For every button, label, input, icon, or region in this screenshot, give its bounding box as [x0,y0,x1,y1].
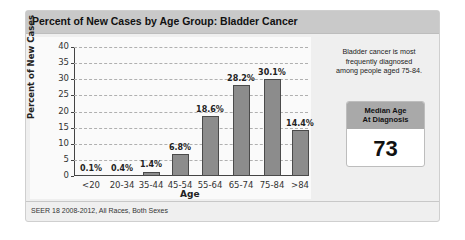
insight-text: Bladder cancer is most frequently diagno… [334,47,424,76]
y-tick-label: 15 [54,122,69,132]
y-tick-mark [71,128,74,129]
bar-value-label: 30.1% [252,68,292,77]
y-tick-label: 10 [54,138,69,148]
bar-65-74 [233,85,250,176]
panel-title: Percent of New Cases by Age Group: Bladd… [32,15,298,27]
y-tick-label: 30 [54,73,69,83]
bar-value-label: 14.4% [280,119,320,128]
y-tick-mark [71,112,74,113]
bar-55-64 [202,116,219,176]
y-tick-mark [71,47,74,48]
y-tick-mark [71,95,74,96]
bar-<20 [83,175,100,176]
bar-35-44 [143,172,160,177]
median-age-value: 73 [347,136,424,162]
y-tick-mark [71,79,74,80]
y-tick-label: 20 [54,106,69,116]
y-tick-label: 5 [54,154,69,164]
bar-value-label: 18.6% [190,105,230,114]
footer-divider [26,201,439,202]
y-tick-label: 40 [54,41,69,51]
bar-45-54 [172,154,189,176]
median-age-card: Median Age At Diagnosis 73 [346,101,425,167]
bar-20-34 [114,175,131,176]
panel-header: Percent of New Cases by Age Group: Bladd… [26,11,439,34]
chart-area: Percent of New Cases 05101520253035400.1… [30,37,311,199]
median-age-header: Median Age At Diagnosis [347,102,424,129]
y-axis-label: Percent of New Cases [26,15,36,119]
bar-value-label: 6.8% [160,143,200,152]
y-tick-mark [71,176,74,177]
plot-area: 05101520253035400.1%<200.4%20-341.4%35-4… [74,47,312,176]
median-label-line1: Median Age [347,106,424,115]
bar->84 [292,130,309,176]
bar-75-84 [264,79,281,176]
footer-source: SEER 18 2008-2012, All Races, Both Sexes [31,207,168,214]
x-axis-label: Age [180,189,200,199]
gridline [74,63,308,64]
y-tick-label: 0 [54,170,69,180]
y-tick-label: 35 [54,57,69,67]
median-label-line2: At Diagnosis [347,115,424,124]
y-tick-label: 25 [54,89,69,99]
x-tick-label: >84 [280,180,320,190]
bar-value-label: 1.4% [131,160,171,169]
chart-panel: Percent of New Cases by Age Group: Bladd… [25,10,440,222]
gridline [74,47,308,48]
y-tick-mark [71,63,74,64]
y-tick-mark [71,160,74,161]
y-tick-mark [71,144,74,145]
